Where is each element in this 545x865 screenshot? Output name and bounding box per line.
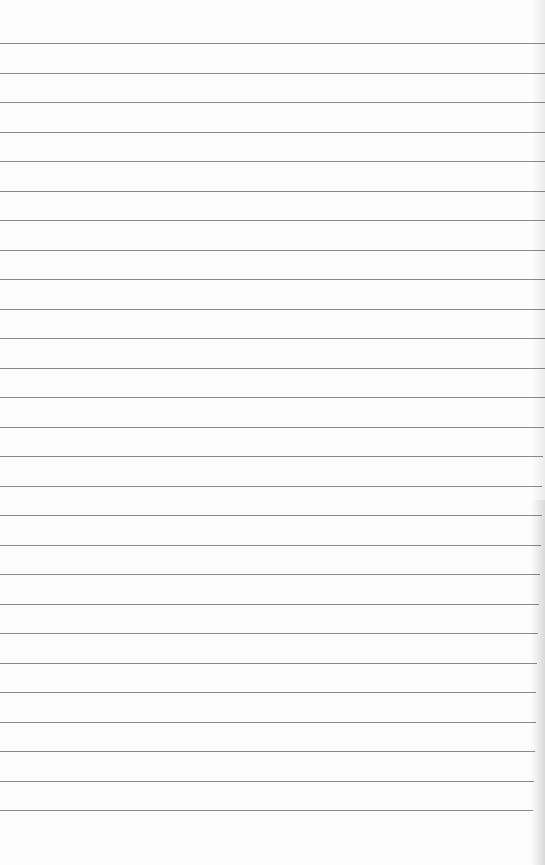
ruled-line <box>0 574 540 575</box>
ruled-line <box>0 250 545 251</box>
ruled-line <box>0 279 545 280</box>
ruled-line <box>0 722 536 723</box>
ruled-line <box>0 191 545 192</box>
ruled-line <box>0 604 539 605</box>
ruled-line <box>0 692 536 693</box>
ruled-line <box>0 309 545 310</box>
ruled-line <box>0 486 542 487</box>
lined-paper-sheet <box>0 0 545 865</box>
ruled-line <box>0 132 545 133</box>
ruled-line <box>0 781 534 782</box>
ruled-line <box>0 515 542 516</box>
ruled-line <box>0 102 545 103</box>
ruled-line <box>0 427 544 428</box>
ruled-line <box>0 456 543 457</box>
ruled-line <box>0 545 541 546</box>
page-edge-shadow-lower <box>531 500 545 865</box>
ruled-line <box>0 73 545 74</box>
ruled-line <box>0 633 538 634</box>
ruled-line <box>0 397 545 398</box>
ruled-line <box>0 368 545 369</box>
ruled-line <box>0 220 545 221</box>
ruled-line <box>0 161 545 162</box>
ruled-line <box>0 751 535 752</box>
ruled-line <box>0 338 545 339</box>
ruled-line <box>0 810 533 811</box>
ruled-line <box>0 663 537 664</box>
ruled-line <box>0 43 545 44</box>
